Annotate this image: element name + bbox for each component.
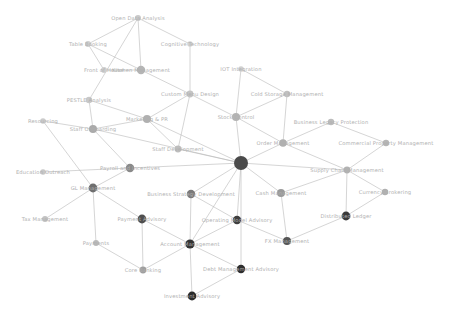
graph-node[interactable] (137, 66, 145, 74)
graph-node[interactable] (284, 91, 290, 97)
graph-node[interactable] (185, 239, 194, 248)
graph-node[interactable] (283, 237, 291, 245)
graph-edge (190, 94, 236, 117)
graph-edge (138, 18, 141, 70)
graph-edge (287, 216, 346, 241)
graph-edge (142, 219, 143, 270)
graph-edge (283, 122, 331, 143)
graph-node[interactable] (344, 167, 351, 174)
graph-node[interactable] (93, 240, 99, 246)
graph-edge (190, 163, 241, 244)
graph-edge (147, 94, 190, 119)
graph-node[interactable] (187, 91, 194, 98)
graph-edge (43, 168, 130, 172)
graph-edge (93, 129, 130, 168)
graph-edge (281, 193, 287, 241)
graph-edge (190, 194, 191, 244)
graph-node[interactable] (187, 41, 193, 47)
graph-edge (43, 121, 93, 129)
graph-node[interactable] (328, 119, 334, 125)
graph-node[interactable] (89, 184, 98, 193)
graph-edge (93, 188, 142, 219)
graph-node[interactable] (187, 190, 195, 198)
graph-edge (143, 244, 190, 270)
graph-node[interactable] (135, 15, 141, 21)
graph-node[interactable] (383, 140, 389, 146)
edge-layer (43, 18, 386, 296)
graph-edge (283, 94, 287, 143)
graph-node[interactable] (86, 97, 92, 103)
node-layer (40, 15, 389, 300)
graph-edge (331, 122, 386, 143)
graph-edge (192, 269, 241, 296)
graph-edge (147, 119, 178, 149)
graph-node[interactable] (188, 292, 197, 301)
graph-node[interactable] (101, 67, 107, 73)
graph-edge (89, 100, 147, 119)
graph-node[interactable] (382, 189, 388, 195)
graph-edge (178, 94, 190, 149)
graph-node[interactable] (140, 267, 147, 274)
graph-edge (142, 219, 190, 244)
graph-edge (45, 188, 93, 219)
graph-edge (347, 143, 386, 170)
graph-edge (138, 18, 190, 44)
graph-edge (96, 243, 143, 270)
graph-edge (190, 220, 237, 244)
graph-edge (191, 194, 237, 220)
graph-edge (190, 244, 192, 296)
graph-node[interactable] (279, 139, 287, 147)
graph-edge (346, 192, 385, 216)
graph-edge (236, 117, 283, 143)
graph-node[interactable] (85, 41, 91, 47)
graph-node[interactable] (232, 113, 240, 121)
graph-node[interactable] (237, 265, 245, 273)
graph-edge (93, 119, 147, 129)
graph-node[interactable] (138, 215, 147, 224)
graph-node[interactable] (40, 118, 46, 124)
graph-edge (237, 220, 287, 241)
graph-edge (93, 188, 96, 243)
graph-node[interactable] (234, 156, 248, 170)
graph-edge (283, 143, 347, 170)
graph-edge (241, 163, 281, 193)
graph-edge (130, 163, 241, 168)
graph-node[interactable] (40, 169, 46, 175)
graph-edge (236, 94, 287, 117)
graph-node[interactable] (277, 189, 285, 197)
graph-edge (190, 244, 241, 269)
graph-edge (347, 170, 385, 192)
graph-edge (89, 18, 138, 100)
graph-edge (281, 170, 347, 193)
graph-edge (93, 168, 130, 188)
graph-edge (89, 100, 93, 129)
graph-edge (147, 119, 241, 163)
graph-node[interactable] (42, 216, 48, 222)
graph-node[interactable] (126, 164, 134, 172)
graph-edge (236, 69, 241, 117)
network-graph-svg (0, 0, 456, 316)
graph-edge (141, 70, 190, 94)
graph-edge (43, 121, 93, 188)
graph-edge (241, 69, 287, 94)
graph-edge (178, 149, 241, 163)
graph-edge (346, 170, 347, 216)
graph-node[interactable] (89, 125, 97, 133)
graph-edge (191, 163, 241, 194)
graph-node[interactable] (342, 212, 351, 221)
graph-node[interactable] (143, 115, 151, 123)
graph-node[interactable] (175, 146, 182, 153)
graph-edge (237, 163, 241, 220)
graph-node[interactable] (238, 66, 244, 72)
graph-edge (241, 163, 347, 170)
network-graph-canvas: Open Data AnalysisTable BookingCognitive… (0, 0, 456, 316)
graph-node[interactable] (233, 216, 241, 224)
